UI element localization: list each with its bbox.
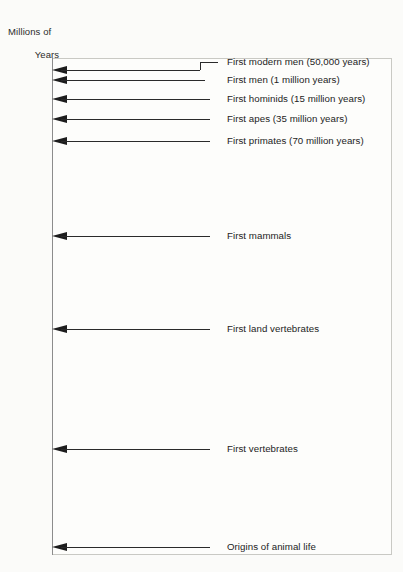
arrow-shaft xyxy=(61,329,210,330)
y-axis-title-line1: Millions of xyxy=(8,26,86,38)
event-label: First men (1 million years) xyxy=(227,74,340,85)
event-label: First primates (70 million years) xyxy=(227,135,364,146)
plot-frame xyxy=(52,58,392,555)
arrow-shaft xyxy=(61,70,200,71)
event-label: First land vertebrates xyxy=(227,323,319,334)
arrow-step-riser xyxy=(200,62,201,70)
arrow-shaft xyxy=(61,449,210,450)
event-label: First vertebrates xyxy=(227,443,298,454)
arrow-shaft xyxy=(61,99,210,100)
event-label: First modern men (50,000 years) xyxy=(227,56,370,67)
event-label: Origins of animal life xyxy=(227,541,316,552)
arrow-shaft xyxy=(61,547,210,548)
event-label: First mammals xyxy=(227,230,291,241)
arrow-shaft xyxy=(61,80,205,81)
event-label: First apes (35 million years) xyxy=(227,113,347,124)
timeline-figure: Millions of Years 0100200300400500600 Fi… xyxy=(0,0,403,572)
arrow-shaft xyxy=(61,141,210,142)
event-label: First hominids (15 million years) xyxy=(227,93,365,104)
arrow-shaft xyxy=(61,119,210,120)
arrow-step-top xyxy=(200,62,218,63)
arrow-shaft xyxy=(61,236,210,237)
y-axis-spine xyxy=(52,58,53,555)
